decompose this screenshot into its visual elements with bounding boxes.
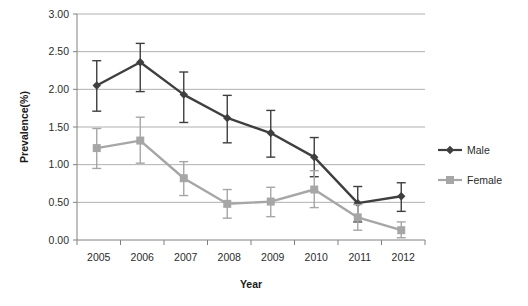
series-male	[92, 43, 406, 222]
x-tick-label: 2007	[174, 251, 198, 263]
x-tick-label: 2011	[348, 251, 371, 263]
legend-item-male[interactable]: Male	[438, 144, 490, 156]
gridlines-group	[77, 14, 425, 202]
y-tick-label: 1.00	[49, 158, 70, 170]
data-point-marker	[267, 198, 275, 206]
legend-label: Female	[467, 174, 502, 186]
data-point-marker	[93, 144, 101, 152]
x-tick-label: 2010	[305, 251, 329, 263]
x-tick-label: 2012	[392, 251, 416, 263]
y-axis-ticks	[73, 14, 77, 240]
error-bar	[136, 43, 145, 91]
x-tick-label: 2005	[87, 251, 111, 263]
legend-item-female[interactable]: Female	[438, 174, 502, 186]
x-axis-title: Year	[240, 278, 262, 290]
x-tick-label: 2008	[218, 251, 242, 263]
series-line	[97, 62, 402, 203]
x-tick-label: 2009	[261, 251, 285, 263]
series-female	[92, 117, 406, 238]
data-point-marker	[354, 213, 362, 221]
y-tick-label: 0.00	[49, 234, 70, 246]
x-tick-label: 2006	[131, 251, 155, 263]
chart-legend: MaleFemale	[438, 144, 502, 186]
y-tick-label: 2.50	[49, 45, 70, 57]
y-tick-label: 2.00	[49, 83, 70, 95]
data-point-marker	[180, 174, 188, 182]
y-axis-title: Prevalence(%)	[18, 91, 30, 163]
y-tick-label: 0.50	[49, 196, 70, 208]
y-axis-tick-labels: 0.000.501.001.502.002.503.00	[49, 8, 70, 246]
y-tick-label: 3.00	[49, 8, 70, 20]
y-tick-label: 1.50	[49, 121, 70, 133]
data-point-marker	[397, 192, 405, 200]
x-axis-ticks	[77, 240, 425, 245]
legend-marker-diamond	[446, 146, 454, 154]
data-point-marker	[397, 226, 405, 234]
chart-page: 0.000.501.001.502.002.503.00 20052006200…	[0, 0, 528, 306]
x-axis-tick-labels: 20052006200720082009201020112012	[87, 251, 415, 263]
data-point-marker	[310, 186, 318, 194]
prevalence-line-chart: 0.000.501.001.502.002.503.00 20052006200…	[0, 0, 528, 306]
legend-marker-square	[446, 176, 454, 184]
data-series-group	[92, 43, 406, 237]
data-point-marker	[223, 200, 231, 208]
data-point-marker	[136, 137, 144, 145]
legend-label: Male	[467, 144, 490, 156]
